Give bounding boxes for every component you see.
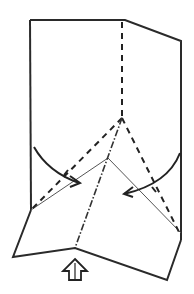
fold-right-arrow-icon [124,153,180,197]
valley-fold-left [31,118,122,210]
paper-outline [30,20,181,240]
valley-fold-right [122,118,181,236]
origami-diagram [0,0,194,294]
bottom-flap [13,210,181,280]
paper-left-edge [30,20,31,210]
mountain-fold [75,118,122,248]
